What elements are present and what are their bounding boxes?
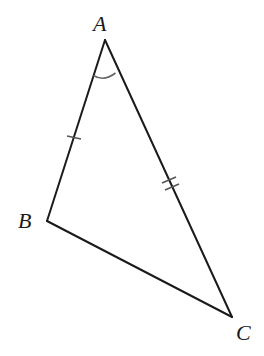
vertex-label-c: C xyxy=(236,320,251,345)
vertex-label-b: B xyxy=(18,208,31,233)
side-ab xyxy=(47,40,105,221)
triangle-abc xyxy=(47,40,232,317)
side-ac xyxy=(105,40,232,317)
angle-a-arc-mark xyxy=(94,73,116,78)
vertex-label-a: A xyxy=(91,11,107,36)
triangle-diagram: A B C xyxy=(0,0,264,356)
side-bc xyxy=(47,221,232,317)
